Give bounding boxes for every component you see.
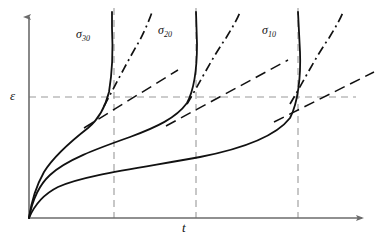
creep-curve-sigma30 (29, 12, 112, 218)
x-axis-label-t: t (182, 221, 186, 234)
curve-label-sigma10: σ10 (262, 24, 276, 39)
sigma-subscript-30: 30 (82, 34, 90, 43)
tangent-line-sigma10 (274, 72, 374, 122)
plot-canvas (0, 0, 380, 240)
creep-curves (29, 12, 300, 218)
tangent-line-sigma20 (166, 60, 288, 126)
tangent-lines (84, 60, 374, 128)
curve-label-sigma30: σ30 (76, 28, 90, 43)
curve-label-sigma20: σ20 (158, 24, 172, 39)
creep-curves-figure: ε t σ30 σ20 σ10 (0, 0, 380, 240)
sigma-subscript-20: 20 (164, 30, 172, 39)
creep-curve-sigma10 (29, 12, 300, 218)
sigma-subscript-10: 10 (268, 30, 276, 39)
relaxation-branches (104, 12, 343, 106)
y-axis-label-epsilon: ε (10, 89, 15, 102)
tangent-line-sigma30 (84, 70, 178, 128)
